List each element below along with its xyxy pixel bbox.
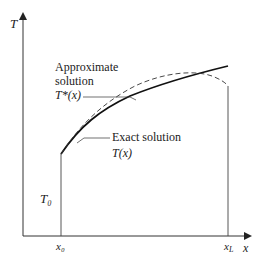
approx-label-line2: solution xyxy=(55,74,94,88)
x0-tick-label: x₀ xyxy=(55,240,65,252)
x-axis-label: x xyxy=(242,241,249,255)
diagram-canvas: T x Approximate solution T*(x) Exact sol… xyxy=(0,0,261,261)
approx-label-line1: Approximate xyxy=(55,60,118,74)
xL-tick-sub: L xyxy=(228,245,234,254)
approx-label-line3: T*(x) xyxy=(55,88,81,102)
boundary-value-label: T₀ xyxy=(40,191,52,206)
y-axis-label: T xyxy=(10,16,18,31)
xL-tick-label: xL xyxy=(223,240,234,254)
exact-label-line2: T(x) xyxy=(112,146,132,160)
exact-label-line1: Exact solution xyxy=(112,130,181,144)
exact-leader-line-2 xyxy=(77,138,84,143)
approx-leader-line-2 xyxy=(130,97,136,100)
